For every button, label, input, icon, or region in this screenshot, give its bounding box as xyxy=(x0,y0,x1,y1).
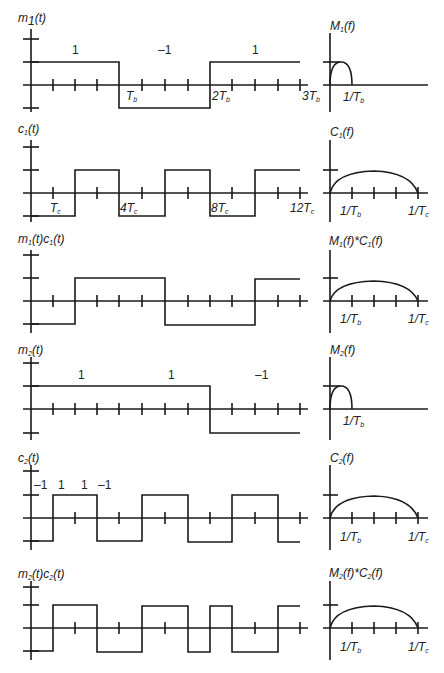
svg-text:–1: –1 xyxy=(34,478,48,492)
svg-text:c1(t): c1(t) xyxy=(18,122,39,136)
panel-title: m1(t) xyxy=(18,11,46,28)
panel-m1c1-t: m1(t)c1(t) xyxy=(18,232,308,333)
svg-text:M2(f): M2(f) xyxy=(330,343,355,357)
svg-text:–1: –1 xyxy=(158,43,172,57)
svg-text:M1(f)*C1(f): M1(f)*C1(f) xyxy=(329,234,383,248)
panel-m2-t: m2(t) 1 1 –1 xyxy=(18,343,308,440)
svg-text:Tc: Tc xyxy=(50,201,61,215)
svg-text:1: 1 xyxy=(252,43,259,57)
panel-M1C1-f: M1(f)*C1(f) 1/Tb 1/Tc xyxy=(323,234,429,333)
panel-M2C2-f: M2(f)*C2(f) 1/Tb 1/Tc xyxy=(323,566,429,660)
svg-text:4Tc: 4Tc xyxy=(120,201,138,215)
svg-text:C1(f): C1(f) xyxy=(330,125,354,139)
svg-text:1/Tc: 1/Tc xyxy=(408,204,429,218)
svg-text:1/Tc: 1/Tc xyxy=(408,640,429,654)
panel-M2-f: M2(f) 1/Tb xyxy=(323,343,428,440)
svg-text:m2(t): m2(t) xyxy=(18,343,43,357)
svg-text:1/Tb: 1/Tb xyxy=(340,204,361,218)
dsss-diagram: m1(t) 1 –1 1 Tb 2Tb 3Tb M1(f) 1/Tb c1(t) xyxy=(0,0,444,673)
svg-text:12Tc: 12Tc xyxy=(290,201,315,215)
svg-text:Tb: Tb xyxy=(126,89,137,103)
svg-text:2Tb: 2Tb xyxy=(211,89,230,103)
svg-text:1/Tc: 1/Tc xyxy=(408,530,429,544)
svg-text:C2(f): C2(f) xyxy=(330,451,354,465)
panel-M1-f: M1(f) 1/Tb xyxy=(323,19,428,112)
svg-text:3Tb: 3Tb xyxy=(302,89,320,103)
svg-text:1/Tc: 1/Tc xyxy=(408,312,429,326)
svg-text:8Tc: 8Tc xyxy=(211,201,229,215)
svg-text:M2(f)*C2(f): M2(f)*C2(f) xyxy=(329,566,383,580)
svg-text:1: 1 xyxy=(81,478,88,492)
svg-text:M1(f): M1(f) xyxy=(330,19,355,33)
svg-text:1: 1 xyxy=(58,478,65,492)
panel-C2-f: C2(f) 1/Tb 1/Tc xyxy=(323,451,429,550)
panel-C1-f: C1(f) 1/Tb 1/Tc xyxy=(323,125,429,222)
svg-text:–1: –1 xyxy=(98,478,112,492)
svg-text:1/Tb: 1/Tb xyxy=(343,414,364,428)
svg-text:1/Tb: 1/Tb xyxy=(340,530,361,544)
svg-text:1/Tb: 1/Tb xyxy=(340,640,361,654)
svg-text:1/Tb: 1/Tb xyxy=(340,312,361,326)
svg-text:1: 1 xyxy=(168,368,175,382)
svg-text:1/Tb: 1/Tb xyxy=(343,90,364,104)
panel-m1-t: m1(t) 1 –1 1 Tb 2Tb 3Tb xyxy=(18,11,320,112)
svg-text:1: 1 xyxy=(72,43,79,57)
svg-text:m1(t)c1(t): m1(t)c1(t) xyxy=(18,232,64,246)
svg-text:m2(t)c2(t): m2(t)c2(t) xyxy=(18,567,64,581)
panel-c2-t: c2(t) –1 1 1 –1 xyxy=(18,451,308,550)
panel-m2c2-t: m2(t)c2(t) xyxy=(18,567,308,660)
svg-text:1: 1 xyxy=(78,368,85,382)
panel-c1-t: c1(t) Tc 4Tc 8Tc 12Tc xyxy=(18,122,315,222)
spectrum-curve xyxy=(330,62,352,85)
svg-text:c2(t): c2(t) xyxy=(18,451,39,465)
svg-text:–1: –1 xyxy=(255,368,269,382)
